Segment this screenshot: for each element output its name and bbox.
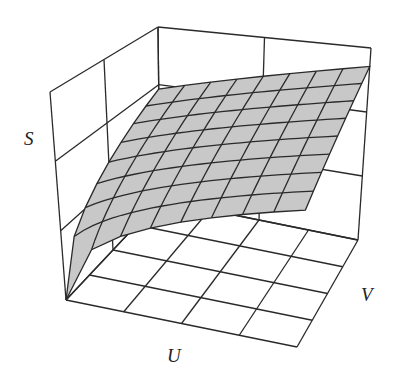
surface-mesh (66, 66, 370, 300)
axis-label-s: S (24, 128, 34, 150)
surface-plot (0, 0, 395, 382)
axis-label-u: U (167, 345, 181, 367)
axis-label-v: V (361, 284, 373, 306)
